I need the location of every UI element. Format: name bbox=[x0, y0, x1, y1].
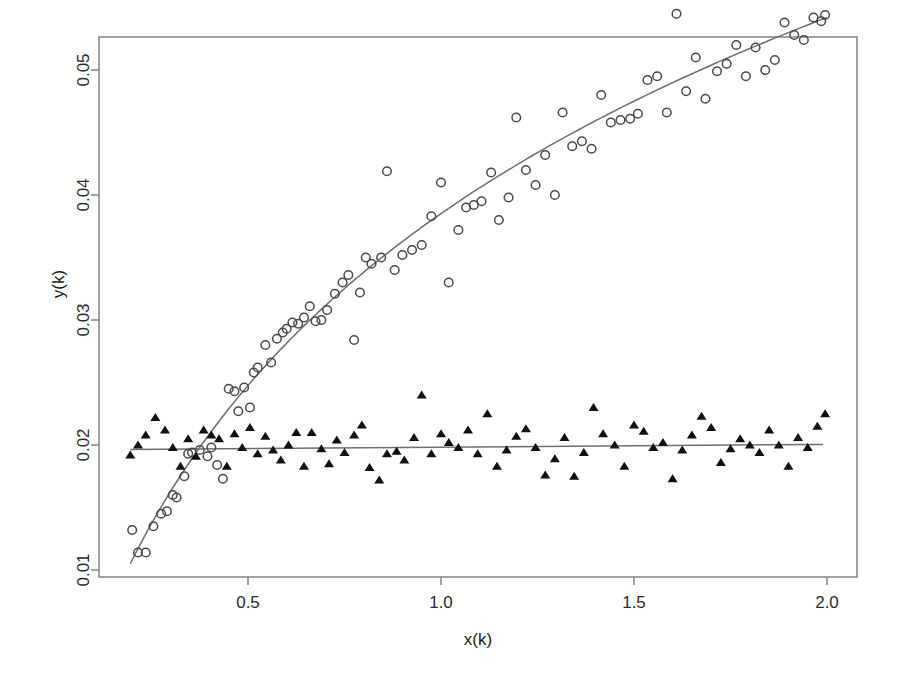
data-point bbox=[668, 474, 678, 482]
data-point bbox=[569, 472, 579, 480]
data-point bbox=[793, 433, 803, 441]
data-point bbox=[175, 462, 185, 470]
data-point bbox=[771, 56, 780, 65]
data-point bbox=[291, 428, 301, 436]
data-point bbox=[219, 474, 228, 483]
data-point bbox=[626, 114, 635, 123]
data-point bbox=[382, 449, 392, 457]
data-point bbox=[754, 448, 764, 456]
data-point bbox=[578, 137, 587, 146]
series-saturating-response bbox=[128, 9, 829, 556]
data-point bbox=[477, 197, 486, 206]
data-point bbox=[820, 409, 830, 417]
y-tick-label: 0.04 bbox=[74, 178, 93, 211]
data-point bbox=[300, 313, 309, 322]
data-point bbox=[356, 288, 365, 297]
data-point bbox=[672, 9, 681, 18]
data-point bbox=[408, 246, 417, 255]
data-point bbox=[234, 407, 243, 416]
data-point bbox=[454, 226, 463, 235]
data-point bbox=[732, 41, 741, 50]
data-point bbox=[550, 454, 560, 462]
data-point bbox=[522, 166, 531, 175]
y-axis-title: y(k) bbox=[49, 270, 68, 298]
data-point bbox=[305, 302, 314, 311]
data-point bbox=[246, 403, 255, 412]
data-point bbox=[764, 425, 774, 433]
data-point bbox=[616, 116, 625, 125]
x-tick-label: 2.0 bbox=[815, 593, 839, 612]
data-point bbox=[677, 445, 687, 453]
data-point bbox=[783, 462, 793, 470]
data-point bbox=[390, 266, 399, 275]
data-point bbox=[332, 435, 342, 443]
scatter-plot: 0.51.01.52.00.010.020.030.040.05x(k)y(k) bbox=[0, 0, 902, 680]
data-point bbox=[521, 424, 531, 432]
data-point bbox=[588, 403, 598, 411]
data-point bbox=[558, 108, 567, 117]
data-point bbox=[168, 443, 178, 451]
data-point bbox=[629, 420, 639, 428]
data-point bbox=[307, 428, 317, 436]
data-point bbox=[722, 59, 731, 68]
data-point bbox=[511, 432, 521, 440]
data-point bbox=[653, 72, 662, 81]
data-point bbox=[203, 452, 212, 461]
data-point bbox=[340, 448, 350, 456]
data-point bbox=[141, 430, 151, 438]
data-point bbox=[276, 455, 286, 463]
data-point bbox=[607, 118, 616, 127]
data-point bbox=[492, 462, 502, 470]
data-point bbox=[344, 271, 353, 280]
data-point bbox=[610, 440, 620, 448]
data-point bbox=[160, 425, 170, 433]
data-point bbox=[619, 462, 629, 470]
y-tick-label: 0.03 bbox=[74, 303, 93, 336]
data-point bbox=[261, 341, 270, 350]
data-point bbox=[128, 526, 137, 535]
data-point bbox=[639, 427, 649, 435]
data-point bbox=[222, 462, 232, 470]
data-point bbox=[487, 168, 496, 177]
data-point bbox=[444, 278, 453, 287]
data-point bbox=[311, 317, 320, 326]
data-point bbox=[398, 251, 407, 260]
x-axis-title: x(k) bbox=[464, 630, 492, 649]
data-point bbox=[350, 336, 359, 345]
data-point bbox=[682, 87, 691, 96]
data-point bbox=[541, 151, 550, 160]
data-point bbox=[199, 425, 209, 433]
data-point bbox=[253, 449, 263, 457]
data-point bbox=[463, 425, 473, 433]
data-point bbox=[409, 433, 419, 441]
series-flat-baseline bbox=[125, 390, 830, 483]
data-point bbox=[634, 109, 643, 118]
data-point bbox=[260, 432, 270, 440]
data-point bbox=[399, 455, 409, 463]
data-point bbox=[648, 443, 658, 451]
data-point bbox=[436, 429, 446, 437]
data-point bbox=[598, 429, 608, 437]
data-point bbox=[213, 461, 222, 470]
data-point bbox=[245, 423, 255, 431]
data-point bbox=[284, 440, 294, 448]
data-point bbox=[207, 443, 216, 452]
data-point bbox=[568, 142, 577, 151]
data-point bbox=[701, 94, 710, 103]
data-point bbox=[133, 440, 143, 448]
data-point bbox=[531, 181, 540, 190]
data-point bbox=[540, 470, 550, 478]
data-point bbox=[504, 193, 513, 202]
data-point bbox=[713, 67, 722, 76]
data-point bbox=[383, 167, 392, 176]
data-point bbox=[338, 278, 347, 287]
data-point bbox=[687, 430, 697, 438]
data-point bbox=[812, 422, 822, 430]
data-point bbox=[444, 438, 454, 446]
x-tick-label: 0.5 bbox=[236, 593, 260, 612]
data-point bbox=[365, 463, 375, 471]
data-point bbox=[512, 113, 521, 122]
data-point bbox=[495, 216, 504, 225]
fit-line-flat-baseline bbox=[130, 444, 823, 449]
fit-line-saturating-response bbox=[130, 18, 827, 564]
